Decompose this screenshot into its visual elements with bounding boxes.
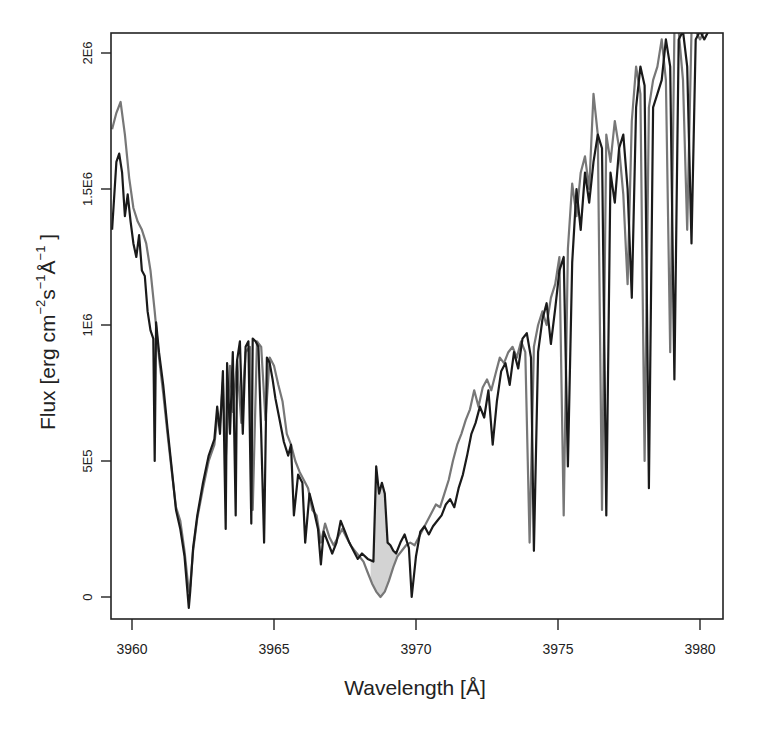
y-tick-label: 2E6 — [80, 28, 96, 78]
x-tick-label: 3960 — [102, 641, 162, 657]
spectrum-figure: 05E51E61.5E62E6 39603965397039753980 Wav… — [0, 0, 757, 736]
series-observed-line — [112, 31, 708, 608]
y-tick-label: 0 — [80, 572, 96, 622]
y-axis-label-exp2: −1 — [33, 274, 48, 289]
x-tick-label: 3975 — [528, 641, 588, 657]
y-axis-label-prefix: Flux [erg cm — [36, 315, 59, 431]
y-tick-label: 1.5E6 — [80, 164, 96, 214]
y-axis-label-exp3: −1 — [33, 246, 48, 261]
y-axis-ticks — [101, 53, 111, 597]
y-axis-label-unit: Å — [36, 260, 59, 274]
x-axis-ticks — [132, 619, 700, 630]
y-axis-label-exp1: −2 — [33, 300, 48, 315]
y-axis-label-mid: s — [36, 289, 59, 300]
x-tick-label: 3965 — [244, 641, 304, 657]
plot-area — [0, 0, 757, 736]
series-model-line — [112, 31, 704, 597]
y-tick-label: 1E6 — [80, 300, 96, 350]
y-axis-label: Flux [erg cm−2s−1Å−1 ] — [29, 152, 57, 512]
spectrum-series — [112, 31, 708, 608]
x-axis-label: Wavelength [Å] — [255, 676, 575, 700]
y-axis-label-suffix: ] — [36, 234, 59, 240]
x-tick-label: 3970 — [386, 641, 446, 657]
y-tick-label: 5E5 — [80, 436, 96, 486]
x-tick-label: 3980 — [670, 641, 730, 657]
